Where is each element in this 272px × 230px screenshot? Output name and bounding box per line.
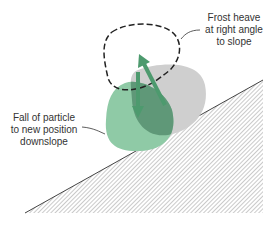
- frost-heave-label: Frost heave at right angle to slope: [198, 12, 270, 48]
- fall-label: Fall of particle to new position downslo…: [2, 112, 86, 148]
